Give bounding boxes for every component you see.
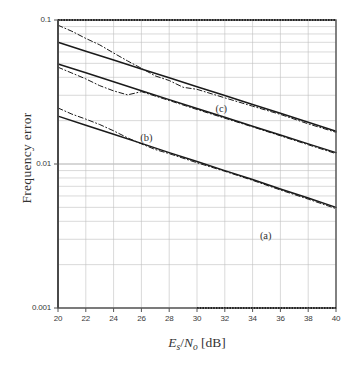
x-axis-tick-label: 38 — [296, 314, 320, 323]
x-axis-tick-label: 32 — [213, 314, 237, 323]
x-axis-title: Es/No [dB] — [58, 335, 336, 351]
curve-label-b: (b) — [140, 132, 152, 143]
x-axis-tick-label: 34 — [241, 314, 265, 323]
y-axis-title: Frequency error — [19, 63, 35, 253]
x-axis-tick-label: 26 — [129, 314, 153, 323]
chart-figure: Frequency error Es/No [dB] 0.10.010.001 … — [0, 0, 351, 366]
x-axis-title-n: N — [184, 335, 193, 350]
x-axis-tick-label: 40 — [324, 314, 348, 323]
y-axis-tick-label: 0.1 — [11, 15, 51, 24]
curve-label-c: (c) — [215, 103, 227, 114]
plot-canvas — [0, 0, 351, 366]
x-axis-tick-label: 22 — [74, 314, 98, 323]
y-axis-tick-label: 0.01 — [11, 159, 51, 168]
curve-label-a: (a) — [260, 230, 272, 241]
x-axis-tick-label: 24 — [102, 314, 126, 323]
x-axis-tick-label: 30 — [185, 314, 209, 323]
x-axis-tick-label: 20 — [46, 314, 70, 323]
y-axis-tick-label: 0.001 — [11, 303, 51, 312]
x-axis-tick-label: 36 — [268, 314, 292, 323]
x-axis-title-unit: [dB] — [201, 335, 226, 350]
x-axis-title-e-sub: s — [176, 342, 180, 352]
x-axis-tick-label: 28 — [157, 314, 181, 323]
axis-ticks — [54, 20, 336, 312]
x-axis-title-n-sub: o — [193, 342, 198, 352]
